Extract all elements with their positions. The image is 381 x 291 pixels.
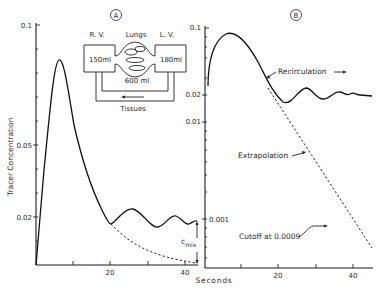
panel-b-ytick-0.1: 0.1 [190,24,201,32]
panel-a-xtick-20: 20 [106,269,115,277]
panel-a-badge: A [111,10,122,21]
panel-b-xtick-20: 20 [274,272,283,280]
panel-a-ytick-0.02: 0.02 [16,214,32,222]
panel-b-ytick-0.02: 0.02 [185,91,201,99]
extrapolation-arrow [292,153,303,156]
circulation-diagram: R. V. Lungs L. V. 150ml 600 ml 180ml [84,31,186,113]
rv-volume: 150ml [89,56,111,64]
panel-a-ytick-0.05: 0.05 [16,142,32,150]
recirculation-label: Recirculation [278,67,327,76]
panel-b-ytick-0.001: 0.001 [209,216,229,224]
y-axis-label: Tracer Concentration [6,117,15,197]
rv-label: R. V. [89,31,104,39]
panel-b-ytick-0.01: 0.01 [185,118,201,126]
panel-a-x-ticks [73,261,185,265]
svg-text:B: B [294,12,299,20]
panel-b-xtick-40: 40 [349,272,358,280]
panel-a-xtick-40: 40 [181,269,190,277]
panel-a: 0.1 0.05 0.02 20 40 Tracer Concentration… [6,10,199,278]
panel-a-ytick-0.1: 0.1 [21,22,32,30]
lv-volume: 180ml [160,56,182,64]
lung-volume: 600 ml [125,77,149,85]
figure: 0.1 0.05 0.02 20 40 Tracer Concentration… [0,0,381,291]
lungs-shape [115,42,155,77]
cmix-annotation: cmix [181,221,199,264]
cmix-label: cmix [181,237,197,248]
panel-b-extrapolation-line [268,88,372,248]
lungs-label: Lungs [126,31,147,39]
svg-text:A: A [114,12,119,20]
panel-b-x-ticks [241,264,353,268]
cutoff-arrow [299,226,325,237]
lv-label: L. V. [160,31,174,39]
x-axis-label: Seconds [195,276,232,285]
tissues-label: Tissues [119,105,146,113]
panel-b-badge: B [291,10,302,21]
panel-b: 0.1 0.02 0.01 0.001 20 40 Seconds Recirc… [185,10,373,286]
cutoff-label: Cutoff at 0.0009 [239,232,300,241]
extrapolation-label: Extrapolation [238,151,288,160]
